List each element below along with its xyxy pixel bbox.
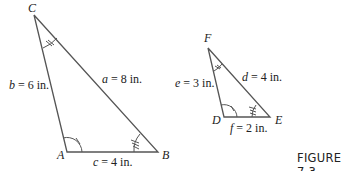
side-f-label: f = 2 in.: [230, 121, 267, 135]
side-a-label: a = 8 in.: [102, 72, 142, 86]
side-d-label: d = 4 in.: [242, 70, 282, 84]
side-b-label: b = 6 in.: [9, 78, 49, 92]
figure-caption: FIGURE 7.3: [297, 151, 363, 171]
vertex-c-label: C: [28, 1, 37, 15]
triangle-abc: C A B b = 6 in. a = 8 in. c = 4 in.: [9, 1, 170, 169]
vertex-e-label: E: [274, 113, 283, 127]
vertex-f-label: F: [203, 31, 212, 45]
angle-b-tick-2: [132, 143, 139, 146]
side-e-label: e = 3 in.: [175, 76, 214, 90]
angle-b-arc: [134, 134, 140, 152]
angle-e-tick-3: [250, 113, 256, 115]
vertex-d-label: D: [211, 113, 221, 127]
similar-triangles-diagram: C A B b = 6 in. a = 8 in. c = 4 in. F D …: [0, 0, 363, 171]
vertex-b-label: B: [162, 148, 170, 162]
angle-c-arc: [43, 38, 57, 48]
triangle-def: F D E e = 3 in. d = 4 in. f = 2 in.: [175, 31, 283, 135]
vertex-a-label: A: [56, 148, 65, 162]
side-c-label: c = 4 in.: [93, 155, 132, 169]
